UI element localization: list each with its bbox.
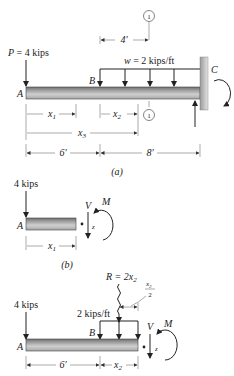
section-point	[143, 346, 146, 349]
dimension-x2: x2	[100, 104, 138, 136]
dimension-x1: x1	[26, 104, 76, 140]
distributed-load-label: 2 kips/ft	[77, 308, 110, 319]
svg-text:1: 1	[147, 112, 151, 120]
svg-text:x1: x1	[47, 108, 56, 121]
svg-text:x2: x2	[113, 359, 122, 372]
dimension-4ft: 4′	[100, 34, 148, 45]
part-b: 4 kips A V z M x1 (b)	[14, 178, 113, 271]
axis-z-label: z	[154, 345, 158, 353]
distributed-load-w: w = 2 kips/ft	[100, 55, 200, 86]
fixed-wall	[200, 57, 208, 110]
svg-text:8′: 8′	[146, 147, 154, 158]
dimension-6ft-8ft: 6′ 8′	[26, 144, 200, 158]
point-B-label: B	[89, 75, 95, 86]
svg-text:6′: 6′	[59, 359, 67, 370]
point-load-P: P = 4 kips	[7, 47, 49, 86]
moment-arrow	[94, 210, 113, 240]
part-c: R = 2x2 x2 2 4 kips 2 kips/ft B A V z	[14, 271, 177, 372]
dimension-x3: x3	[27, 127, 137, 140]
shear-V-label: V	[85, 200, 93, 211]
svg-text:2: 2	[148, 291, 152, 299]
dimension-6ft-x2: 6′ x2	[26, 356, 138, 372]
caption-a: (a)	[111, 166, 123, 178]
point-C-label: C	[211, 64, 218, 75]
load-4kips-label: 4 kips	[14, 299, 38, 310]
resultant-label: R = 2x2	[105, 271, 137, 284]
svg-text:x2: x2	[112, 108, 121, 121]
distributed-load-label: w = 2 kips/ft	[124, 55, 175, 66]
shear-V-label: V	[147, 321, 155, 332]
moment-M-label: M	[163, 318, 173, 329]
moment-M-label: M	[101, 196, 111, 207]
section-point	[81, 223, 84, 226]
svg-text:x2: x2	[145, 280, 152, 289]
beam-diagram: 1 4′ P = 4 kips w = 2 kips/ft B A C	[0, 0, 234, 376]
moment-arrow	[157, 330, 177, 360]
svg-text:6′: 6′	[59, 147, 67, 158]
load-4kips-label: 4 kips	[14, 178, 38, 189]
point-A-label: A	[16, 341, 24, 352]
beam-segment-c	[26, 339, 138, 351]
distributed-load	[100, 321, 138, 339]
reaction-moment-arrow	[214, 80, 231, 106]
svg-text:x1: x1	[47, 240, 56, 253]
axis-z-label: z	[91, 223, 95, 231]
svg-text:4′: 4′	[120, 34, 128, 45]
section-marker-top: 1	[144, 11, 155, 41]
section-marker-bottom: 1	[144, 101, 155, 121]
caption-b: (b)	[61, 259, 73, 271]
point-A-label: A	[16, 220, 24, 231]
load-P-label: P = 4 kips	[7, 47, 49, 58]
part-a: 1 4′ P = 4 kips w = 2 kips/ft B A C	[7, 11, 231, 179]
point-B-label: B	[89, 327, 95, 338]
point-A-label: A	[16, 88, 24, 99]
resultant-arm-fraction: x2 2	[120, 280, 155, 311]
svg-text:x3: x3	[77, 127, 86, 140]
beam-a	[26, 87, 200, 99]
beam-segment-b	[26, 218, 76, 230]
dimension-x1: x1	[26, 236, 76, 253]
resultant-break-line	[118, 284, 121, 314]
svg-text:1: 1	[147, 13, 151, 21]
